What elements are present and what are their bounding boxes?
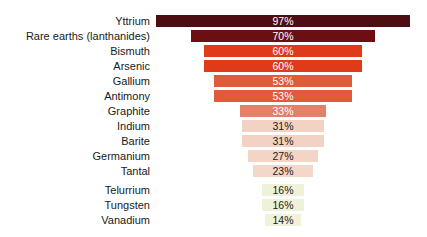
bar: 70%: [191, 30, 374, 42]
bar: 60%: [204, 60, 361, 72]
category-label: Indium: [0, 120, 150, 132]
category-label: Germanium: [0, 150, 150, 162]
category-label: Graphite: [0, 105, 150, 117]
funnel-row: Antimony 53%: [0, 90, 427, 105]
funnel-row: Vanadium 14%: [0, 214, 427, 229]
bar: 53%: [214, 90, 353, 102]
value-label: 16%: [272, 184, 293, 196]
bar: 27%: [248, 150, 319, 162]
category-label: Bismuth: [0, 45, 150, 57]
value-label: 70%: [272, 30, 293, 42]
value-label: 53%: [272, 90, 293, 102]
bar: 97%: [156, 15, 410, 27]
category-label: Rare earths (lanthanides): [0, 30, 150, 42]
funnel-row: Tungsten 16%: [0, 199, 427, 214]
funnel-row: Gallium 53%: [0, 75, 427, 90]
category-label: Telurrium: [0, 184, 150, 196]
category-label: Tungsten: [0, 199, 150, 211]
value-label: 97%: [272, 15, 293, 27]
funnel-row: Germanium 27%: [0, 150, 427, 165]
bar: 16%: [262, 184, 304, 196]
funnel-row: Arsenic 60%: [0, 60, 427, 75]
bar: 31%: [242, 135, 323, 147]
bar: 14%: [265, 214, 302, 226]
category-label: Barite: [0, 135, 150, 147]
chart-rows: Yttrium 97% Rare earths (lanthanides) 70…: [0, 15, 427, 229]
category-label: Arsenic: [0, 60, 150, 72]
value-label: 33%: [272, 105, 293, 117]
funnel-row: Graphite 33%: [0, 105, 427, 120]
category-label: Yttrium: [0, 15, 150, 27]
value-label: 14%: [272, 214, 293, 226]
bar: 60%: [204, 45, 361, 57]
value-label: 31%: [272, 120, 293, 132]
value-label: 23%: [272, 165, 293, 177]
funnel-row: Rare earths (lanthanides) 70%: [0, 30, 427, 45]
funnel-row: Tantal 23%: [0, 165, 427, 180]
funnel-chart: Yttrium 97% Rare earths (lanthanides) 70…: [0, 0, 427, 237]
bar: 23%: [253, 165, 313, 177]
value-label: 27%: [272, 150, 293, 162]
funnel-row: Bismuth 60%: [0, 45, 427, 60]
category-label: Vanadium: [0, 214, 150, 226]
bar: 31%: [242, 120, 323, 132]
value-label: 60%: [272, 45, 293, 57]
bar: 53%: [214, 75, 353, 87]
value-label: 31%: [272, 135, 293, 147]
category-label: Tantal: [0, 165, 150, 177]
bar: 33%: [240, 105, 326, 117]
funnel-row: Indium 31%: [0, 120, 427, 135]
category-label: Gallium: [0, 75, 150, 87]
funnel-row: Telurrium 16%: [0, 184, 427, 199]
funnel-row: Barite 31%: [0, 135, 427, 150]
value-label: 60%: [272, 60, 293, 72]
value-label: 16%: [272, 199, 293, 211]
bar: 16%: [262, 199, 304, 211]
funnel-row: Yttrium 97%: [0, 15, 427, 30]
value-label: 53%: [272, 75, 293, 87]
category-label: Antimony: [0, 90, 150, 102]
